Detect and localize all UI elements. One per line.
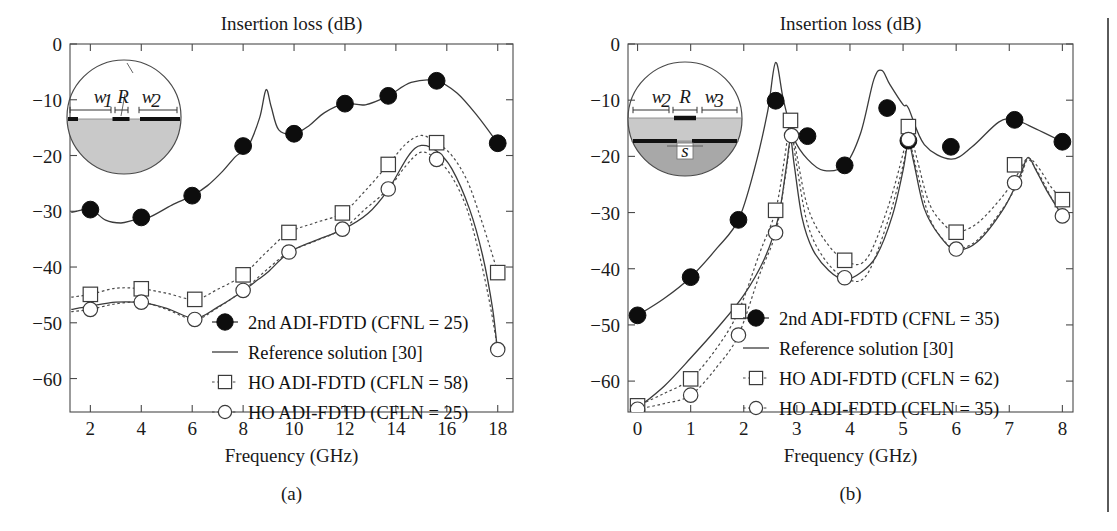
legend-label: HO ADI-FDTD (CFLN = 58) — [248, 373, 468, 394]
legend-a: 2nd ADI-FDTD (CFNL = 25)Reference soluti… — [212, 313, 468, 424]
data-point — [942, 138, 959, 155]
legend-label: Reference solution [30] — [248, 343, 423, 363]
data-point — [235, 138, 252, 155]
y-tick-label: −30 — [32, 201, 62, 222]
chart-title-b: Insertion loss (dB) — [780, 13, 921, 35]
data-point — [236, 268, 250, 282]
data-point — [429, 152, 443, 166]
data-point — [134, 295, 148, 309]
data-point — [282, 225, 296, 239]
data-point — [901, 132, 915, 146]
x-tick-label: 0 — [633, 418, 643, 439]
data-point — [335, 206, 349, 220]
legend-marker-filled-circle-icon — [748, 310, 764, 326]
data-point — [337, 95, 354, 112]
inset-label-w3-sub: 3 — [713, 90, 724, 111]
data-point — [682, 269, 699, 286]
data-point — [629, 307, 646, 324]
x-tick-label: 4 — [137, 418, 147, 439]
data-point — [1007, 158, 1021, 172]
y-tick-label: −30 — [590, 203, 620, 224]
chart-title-a: Insertion loss (dB) — [221, 13, 362, 35]
data-point — [134, 282, 148, 296]
data-curves-b — [629, 62, 1071, 416]
data-point — [82, 201, 99, 218]
y-tick-label: −40 — [590, 259, 620, 280]
data-point — [799, 128, 816, 145]
data-point — [949, 225, 963, 239]
data-point — [630, 402, 644, 416]
x-axis-label-a: Frequency (GHz) — [225, 445, 358, 467]
data-point — [133, 209, 150, 226]
data-point — [83, 287, 97, 301]
x-tick-label: 3 — [792, 418, 802, 439]
inset-substrate — [67, 119, 181, 176]
data-point — [768, 203, 782, 217]
page-column-rule — [1107, 18, 1109, 512]
legend-label: Reference solution [30] — [779, 339, 954, 359]
chart-panel-b: 0123456780−10−20−30−40−50−60Insertion lo… — [557, 0, 1115, 531]
y-tick-label: −20 — [32, 146, 62, 167]
y-tick-label: −10 — [32, 90, 62, 111]
data-point — [730, 211, 747, 228]
data-point — [1006, 111, 1023, 128]
inset-layer-upper — [628, 118, 742, 141]
legend-marker-open-square-icon — [218, 375, 231, 388]
y-tick-label: −60 — [32, 369, 62, 390]
legend-label: 2nd ADI-FDTD (CFNL = 25) — [248, 313, 468, 334]
y-tick-label: −50 — [32, 313, 62, 334]
data-point — [683, 372, 697, 386]
x-tick-label: 2 — [739, 418, 749, 439]
chart-svg-a: 246810121416180−10−20−30−40−50−60Inserti… — [0, 0, 558, 531]
data-point — [381, 157, 395, 171]
x-tick-label: 5 — [898, 418, 908, 439]
data-point — [286, 125, 303, 142]
data-point — [731, 328, 745, 342]
y-tick-label: −20 — [590, 146, 620, 167]
inset-label-w1-sub: 1 — [103, 90, 113, 111]
y-tick-label: −10 — [590, 90, 620, 111]
x-tick-label: 2 — [86, 418, 96, 439]
x-axis-label-b: Frequency (GHz) — [784, 445, 917, 467]
panel-caption-a: (a) — [281, 483, 302, 505]
data-point — [188, 312, 202, 326]
legend-marker-open-circle-icon — [749, 401, 762, 414]
legend-marker-filled-circle-icon — [217, 314, 233, 330]
data-point — [1007, 176, 1021, 190]
y-tick-label: 0 — [53, 34, 63, 55]
data-point — [491, 265, 505, 279]
data-point — [683, 388, 697, 402]
data-point — [381, 182, 395, 196]
data-point — [901, 119, 915, 133]
legend-label: HO ADI-FDTD (CFLN = 25) — [248, 403, 468, 424]
data-point — [491, 342, 505, 356]
inset-diagram-a: w1Rw2 — [67, 60, 181, 176]
x-tick-label: 18 — [488, 418, 507, 439]
x-tick-label: 8 — [238, 418, 248, 439]
data-point — [380, 87, 397, 104]
data-point — [489, 135, 506, 152]
inset-label-R: R — [116, 86, 129, 107]
inset-diagram-b: sw2Rw3 — [628, 62, 742, 198]
data-point — [1055, 192, 1069, 206]
x-tick-label: 6 — [187, 418, 197, 439]
inset-label-w2-sub: 2 — [661, 90, 671, 111]
data-point — [1054, 133, 1071, 150]
x-tick-label: 8 — [1058, 418, 1068, 439]
x-tick-label: 6 — [951, 418, 961, 439]
legend-label: HO ADI-FDTD (CFLN = 62) — [779, 369, 999, 390]
data-point — [837, 253, 851, 267]
inset-label-R: R — [678, 86, 691, 107]
data-point — [429, 135, 443, 149]
legend-label: 2nd ADI-FDTD (CFNL = 35) — [779, 309, 999, 330]
data-point — [949, 242, 963, 256]
y-tick-label: −50 — [590, 315, 620, 336]
chart-panel-a: 246810121416180−10−20−30−40−50−60Inserti… — [0, 0, 558, 531]
data-point — [83, 302, 97, 316]
legend-marker-open-circle-icon — [218, 405, 231, 418]
inset-label-w2-sub: 2 — [151, 90, 161, 111]
legend-b: 2nd ADI-FDTD (CFNL = 35)Reference soluti… — [743, 309, 999, 420]
legend-marker-open-square-icon — [749, 371, 762, 384]
data-point — [335, 222, 349, 236]
inset-label-s: s — [681, 140, 688, 161]
